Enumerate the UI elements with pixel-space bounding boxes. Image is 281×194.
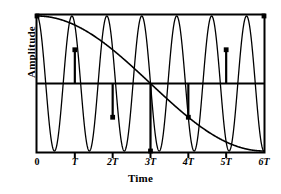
y-axis-title: Amplitude bbox=[25, 0, 37, 107]
x-axis-title: Time bbox=[0, 172, 281, 184]
sample-marker bbox=[262, 14, 267, 19]
chart-figure: Amplitude Time 0T2T3T4T5T6T bbox=[0, 0, 281, 194]
x-tick-label-3t: 3T bbox=[138, 156, 164, 167]
x-tick-label-2t: 2T bbox=[100, 156, 126, 167]
sample-marker bbox=[110, 115, 115, 120]
sample-marker bbox=[72, 47, 77, 52]
x-tick-label-5t: 5T bbox=[213, 156, 239, 167]
x-tick-label-4t: 4T bbox=[175, 156, 201, 167]
sample-marker bbox=[186, 115, 191, 120]
x-tick-label-t: T bbox=[62, 156, 88, 167]
x-tick-label-6t: 6T bbox=[251, 156, 277, 167]
x-tick-label-0: 0 bbox=[24, 156, 50, 167]
sample-marker bbox=[224, 47, 229, 52]
